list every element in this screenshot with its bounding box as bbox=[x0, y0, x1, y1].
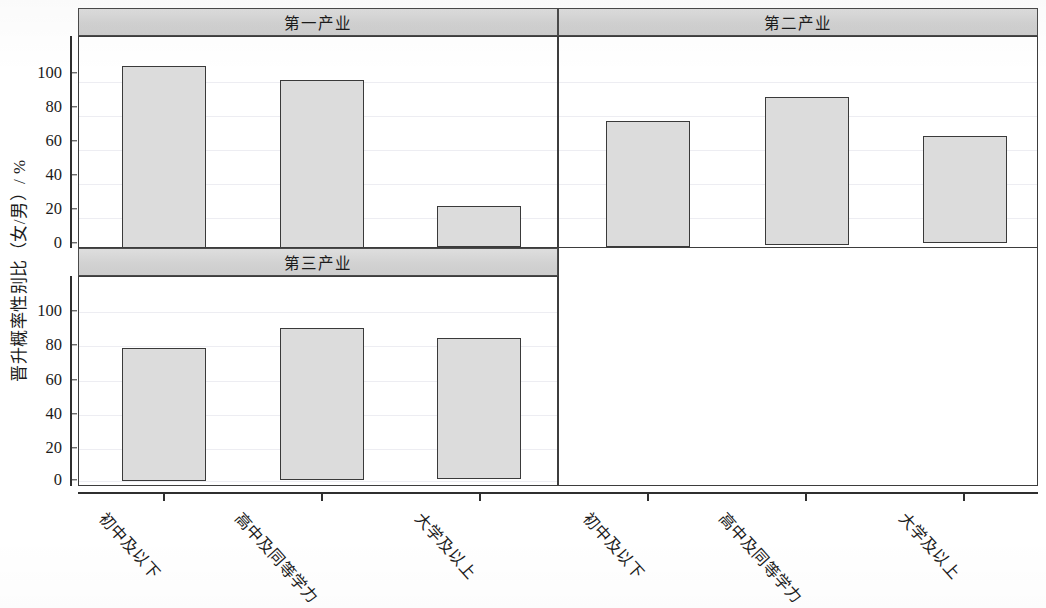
y-tick-label-20: 20 bbox=[22, 199, 62, 219]
panel-primary-industry: 第一产业 bbox=[78, 8, 558, 248]
y-tick-label-0: 0 bbox=[22, 470, 62, 490]
x-tick-mark-university bbox=[963, 492, 965, 501]
panel-title-tertiary-industry: 第三产业 bbox=[284, 251, 352, 273]
x-tick-label-university: 大学及以上 bbox=[410, 506, 483, 583]
x-tick-mark-senior-high bbox=[321, 492, 323, 501]
y-tick-mark-100 bbox=[70, 72, 77, 73]
panel-tertiary-industry: 第三产业 bbox=[78, 248, 558, 486]
y-axis-line-top bbox=[70, 36, 72, 248]
y-tick-label-60: 60 bbox=[22, 131, 62, 151]
y-tick-mark-20 bbox=[70, 447, 77, 448]
panel-empty bbox=[558, 248, 1038, 486]
gridline-100 bbox=[79, 312, 557, 313]
x-tick-mark-junior-high bbox=[647, 492, 649, 501]
y-tick-mark-60 bbox=[70, 140, 77, 141]
x-tick-label-junior-high: 初中及以下 bbox=[94, 506, 167, 583]
plot-area-primary-industry bbox=[78, 36, 558, 248]
x-tick-label-senior-high: 高中及同等学力 bbox=[230, 506, 325, 608]
x-tick-label-university: 大学及以上 bbox=[894, 506, 967, 583]
gridline-0 bbox=[79, 481, 557, 482]
y-tick-mark-20 bbox=[70, 208, 77, 209]
y-tick-mark-80 bbox=[70, 106, 77, 107]
y-tick-label-20: 20 bbox=[22, 438, 62, 458]
bar-tertiary-senior-high bbox=[280, 328, 364, 480]
x-tick-mark-junior-high bbox=[163, 492, 165, 501]
y-tick-label-80: 80 bbox=[22, 335, 62, 355]
y-tick-mark-80 bbox=[70, 344, 77, 345]
plot-area-secondary-industry bbox=[558, 36, 1038, 248]
plot-area-empty bbox=[558, 248, 1038, 486]
y-tick-mark-0 bbox=[70, 242, 77, 243]
panel-secondary-industry: 第二产业 bbox=[558, 8, 1038, 248]
x-tick-label-junior-high: 初中及以下 bbox=[578, 506, 651, 583]
x-axis-line-left bbox=[78, 492, 558, 494]
bar-secondary-university bbox=[923, 136, 1007, 243]
bar-primary-junior-high bbox=[122, 66, 206, 248]
x-tick-mark-university bbox=[479, 492, 481, 501]
bar-primary-university bbox=[437, 206, 521, 247]
chart-figure: 晋升概率性别比（女/男）/ % 第一产业 第二产业 bbox=[0, 0, 1046, 608]
y-tick-label-100: 100 bbox=[22, 63, 62, 83]
plot-area-tertiary-industry bbox=[78, 276, 558, 486]
panel-strip-secondary-industry: 第二产业 bbox=[558, 8, 1038, 36]
bar-secondary-junior-high bbox=[606, 121, 690, 247]
x-tick-label-senior-high: 高中及同等学力 bbox=[714, 506, 809, 608]
y-tick-label-80: 80 bbox=[22, 97, 62, 117]
y-tick-label-40: 40 bbox=[22, 165, 62, 185]
panel-title-secondary-industry: 第二产业 bbox=[764, 11, 832, 33]
y-axis-line-bottom bbox=[70, 276, 72, 486]
y-tick-label-0: 0 bbox=[22, 233, 62, 253]
y-tick-mark-40 bbox=[70, 413, 77, 414]
bar-primary-senior-high bbox=[280, 80, 364, 248]
panel-title-primary-industry: 第一产业 bbox=[284, 11, 352, 33]
bar-tertiary-university bbox=[437, 338, 521, 479]
y-tick-mark-40 bbox=[70, 174, 77, 175]
y-tick-label-40: 40 bbox=[22, 404, 62, 424]
y-tick-label-60: 60 bbox=[22, 370, 62, 390]
y-tick-mark-0 bbox=[70, 479, 77, 480]
gridline-100 bbox=[559, 82, 1037, 83]
y-tick-mark-60 bbox=[70, 379, 77, 380]
x-axis-line-right bbox=[558, 492, 1038, 494]
x-tick-mark-senior-high bbox=[805, 492, 807, 501]
panel-strip-primary-industry: 第一产业 bbox=[78, 8, 558, 36]
bar-secondary-senior-high bbox=[765, 97, 849, 245]
y-tick-label-100: 100 bbox=[22, 301, 62, 321]
y-tick-mark-100 bbox=[70, 310, 77, 311]
panel-strip-tertiary-industry: 第三产业 bbox=[78, 248, 558, 276]
bar-tertiary-junior-high bbox=[122, 348, 206, 481]
